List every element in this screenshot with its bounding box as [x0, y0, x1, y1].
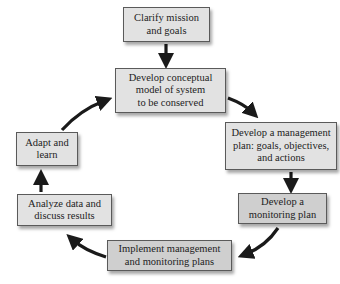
node-label: Clarify mission and goals	[134, 12, 199, 37]
node-label: Develop a management plan: goals, object…	[231, 127, 330, 165]
node-label: Analyze data and discuss results	[28, 198, 101, 223]
node-clarify-mission: Clarify mission and goals	[123, 7, 210, 42]
arrow-adapt-to-conceptual	[62, 101, 104, 130]
node-implement-plans: Implement management and monitoring plan…	[107, 240, 232, 271]
arrow-conceptual-to-management	[228, 98, 252, 112]
node-label: Develop conceptual model of system to be…	[129, 72, 213, 110]
node-label: Adapt and learn	[25, 137, 68, 162]
node-management-plan: Develop a management plan: goals, object…	[225, 122, 337, 170]
node-adapt-learn: Adapt and learn	[16, 132, 78, 166]
node-analyze-data: Analyze data and discuss results	[17, 194, 112, 226]
node-monitoring-plan: Develop a monitoring plan	[238, 193, 327, 224]
node-label: Develop a monitoring plan	[249, 196, 316, 221]
node-label: Implement management and monitoring plan…	[119, 243, 221, 268]
arrow-monitoring-to-implement	[246, 228, 278, 254]
arrow-implement-to-analyze	[73, 240, 106, 257]
node-conceptual-model: Develop conceptual model of system to be…	[115, 68, 226, 113]
